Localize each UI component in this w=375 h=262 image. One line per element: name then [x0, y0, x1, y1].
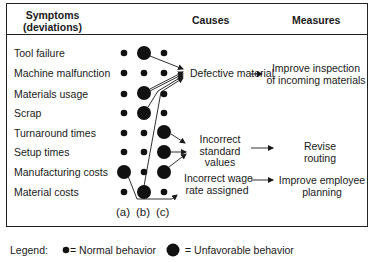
measure-revise-routing: Revise routing: [290, 141, 350, 164]
legend-unfavorable: = Unfavorable behavior: [185, 244, 294, 256]
measure-improve-inspection: Improve inspection of incoming materials: [266, 63, 366, 86]
unfavorable-dot-icon: [164, 240, 184, 260]
cause-incorrect-wage-rate: Incorrect wage rate assigned: [184, 173, 250, 196]
cause-defective-material: Defective material: [190, 68, 274, 80]
dot-grid: [117, 46, 171, 199]
dot-matrix-and-arrows: [0, 0, 375, 262]
legend-label: Legend:: [10, 244, 48, 256]
cause-incorrect-standard-values: Incorrect standard values: [195, 134, 245, 169]
measure-improve-employee-planning: Improve employee planning: [276, 175, 368, 198]
legend-normal: = Normal behavior: [70, 244, 156, 256]
